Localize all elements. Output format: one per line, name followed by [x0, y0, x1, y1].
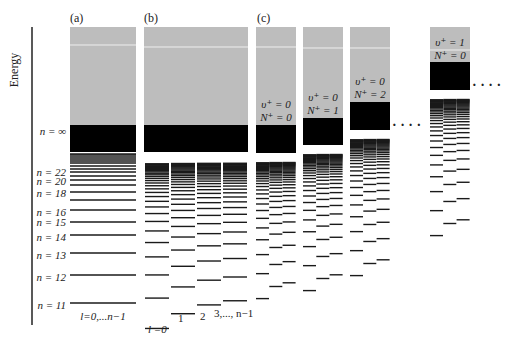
continuum-region	[144, 27, 248, 125]
levels-panel-b	[145, 163, 247, 328]
series-limit-v0-n1	[303, 118, 343, 145]
n-label: n = 13	[37, 249, 67, 261]
rydberg-series-limit	[70, 125, 136, 152]
rydberg-series-limit	[144, 125, 248, 152]
state-label-v: υ⁺ = 1	[435, 36, 464, 48]
series-limit-v0-n2	[350, 102, 390, 130]
state-label-v: υ⁺ = 0	[261, 98, 291, 110]
n-label: n = ∞	[40, 125, 66, 137]
n-label: n = 11	[37, 299, 66, 311]
l0-label: l =0	[148, 323, 167, 335]
state-label-n: N⁺ = 2	[353, 88, 386, 100]
energy-level-diagram: Energy (a) (b) (c) l=0,...n−1 n = ∞n = 2…	[0, 0, 523, 354]
panel-a-sublabel: l=0,...n−1	[80, 310, 125, 322]
series-limit-v0-n0	[256, 125, 296, 153]
ellipsis-dots: · · · ·	[392, 118, 421, 133]
n-label: n = 14	[37, 231, 67, 243]
panel-b: l =0 1 2 3,..., n−1	[144, 27, 253, 335]
panel-b-label: (b)	[144, 11, 158, 25]
series-limit-v1-n0	[430, 62, 470, 90]
n-label: n = 15	[37, 216, 67, 228]
l3-label: 3,..., n−1	[214, 307, 253, 319]
panel-c: υ⁺ = 0 N⁺ = 0 υ⁺ = 0 N⁺ = 1 υ⁺ = 0 N⁺ = …	[256, 27, 501, 299]
continuum-region	[70, 27, 136, 125]
ellipsis-dots: · · · ·	[472, 78, 501, 93]
energy-axis-label: Energy	[7, 53, 21, 87]
panel-c-label: (c)	[257, 11, 270, 25]
n-label: n = 20	[37, 175, 67, 187]
n-labels: n = ∞n = 22n = 20n = 18n = 16n = 15n = 1…	[37, 125, 67, 311]
l1-label: 1	[178, 312, 184, 324]
n-label: n = 18	[37, 187, 67, 199]
panel-a: l=0,...n−1	[70, 27, 136, 322]
levels-panel-a	[70, 154, 136, 303]
l2-label: 2	[200, 310, 206, 322]
state-label-v: υ⁺ = 0	[308, 91, 338, 103]
state-label-v: υ⁺ = 0	[355, 75, 385, 87]
state-label-n: N⁺ = 0	[433, 49, 466, 61]
n-label: n = 12	[37, 271, 67, 283]
panel-a-label: (a)	[70, 11, 83, 25]
state-label-n: N⁺ = 0	[259, 111, 292, 123]
state-label-n: N⁺ = 1	[306, 104, 339, 116]
